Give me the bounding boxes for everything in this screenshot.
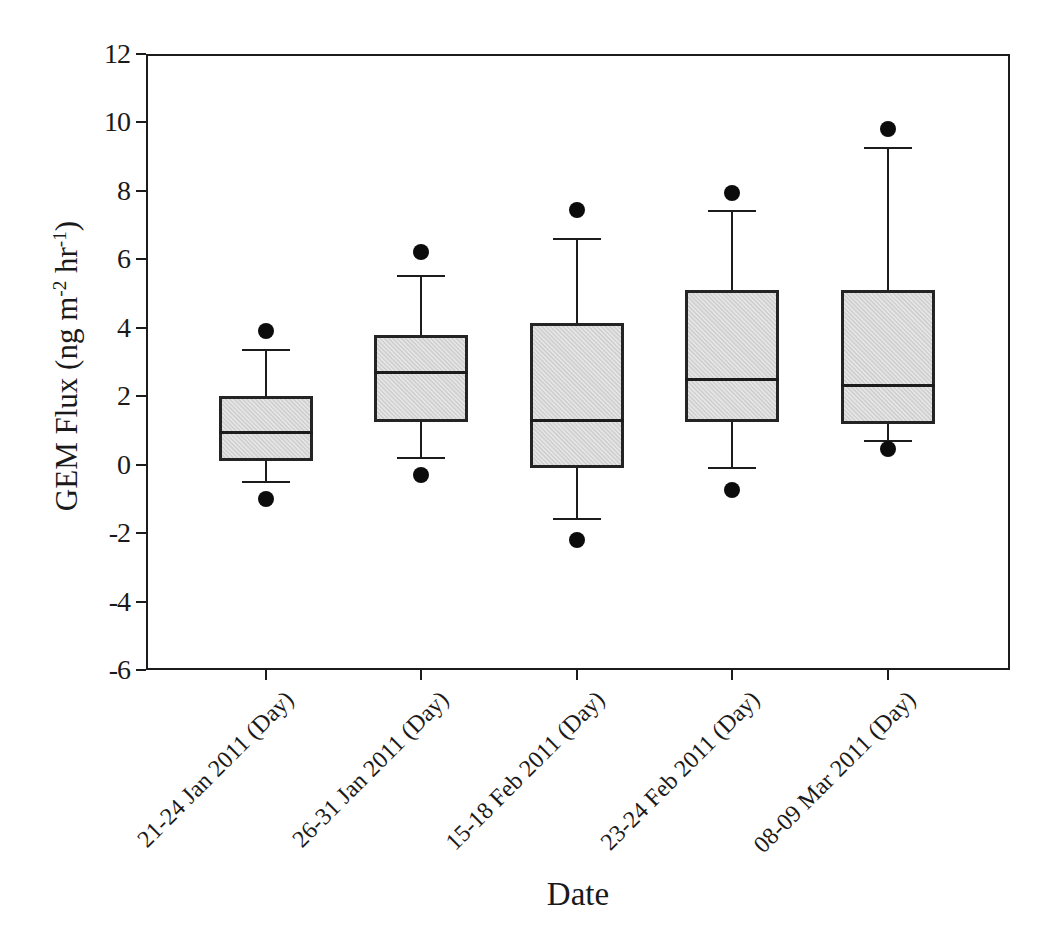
lower-whisker-line xyxy=(576,468,578,519)
y-tick-mark xyxy=(136,53,146,55)
lower-whisker-line xyxy=(731,422,733,468)
outlier-dot xyxy=(413,467,429,483)
median-line xyxy=(374,371,468,374)
y-axis-title-sup-1: -1 xyxy=(49,231,70,247)
outlier-dot xyxy=(569,532,585,548)
upper-whisker-line xyxy=(420,276,422,334)
lower-whisker-cap xyxy=(242,481,290,483)
x-tick-mark xyxy=(265,670,267,680)
y-tick-mark xyxy=(136,258,146,260)
box-rect xyxy=(530,323,624,468)
outlier-dot xyxy=(569,202,585,218)
outlier-dot xyxy=(724,185,740,201)
upper-whisker-line xyxy=(576,239,578,323)
x-tick-mark xyxy=(887,670,889,680)
y-tick-mark xyxy=(136,395,146,397)
box-rect xyxy=(841,290,935,423)
y-axis-title-mid: hr xyxy=(49,247,84,281)
box-rect xyxy=(374,335,468,422)
outlier-dot xyxy=(258,323,274,339)
upper-whisker-cap xyxy=(553,238,601,240)
upper-whisker-line xyxy=(731,211,733,290)
y-tick-mark xyxy=(136,464,146,466)
lower-whisker-cap xyxy=(397,457,445,459)
lower-whisker-line xyxy=(420,422,422,458)
y-axis-title-sup-2: -2 xyxy=(49,281,70,297)
y-tick-mark xyxy=(136,327,146,329)
upper-whisker-line xyxy=(265,350,267,396)
y-axis-title: GEM Flux (ng m-2 hr-1) xyxy=(40,56,80,676)
x-tick-mark xyxy=(576,670,578,680)
outlier-dot xyxy=(258,491,274,507)
y-tick-mark xyxy=(136,601,146,603)
box-rect xyxy=(219,396,313,461)
outlier-dot xyxy=(413,244,429,260)
y-axis-title-suffix: ) xyxy=(49,221,84,231)
y-axis-title-text: GEM Flux (ng m xyxy=(49,297,84,511)
y-tick-mark xyxy=(136,190,146,192)
median-line xyxy=(219,431,313,434)
x-tick-mark xyxy=(731,670,733,680)
y-tick-mark xyxy=(136,121,146,123)
x-axis-title: Date xyxy=(146,876,1010,913)
chart-layer: 121086420-2-4-621-24 Jan 2011 (Day)26-31… xyxy=(0,0,1058,951)
upper-whisker-cap xyxy=(708,210,756,212)
y-tick-mark xyxy=(136,532,146,534)
median-line xyxy=(841,384,935,387)
upper-whisker-cap xyxy=(864,147,912,149)
upper-whisker-cap xyxy=(397,275,445,277)
upper-whisker-line xyxy=(887,148,889,290)
y-tick-mark xyxy=(136,669,146,671)
lower-whisker-cap xyxy=(553,518,601,520)
box-rect xyxy=(685,290,779,422)
outlier-dot xyxy=(880,121,896,137)
lower-whisker-line xyxy=(265,461,267,482)
x-tick-mark xyxy=(420,670,422,680)
boxplot-figure: 121086420-2-4-621-24 Jan 2011 (Day)26-31… xyxy=(0,0,1058,951)
median-line xyxy=(685,378,779,381)
lower-whisker-line xyxy=(887,424,889,441)
outlier-dot xyxy=(880,441,896,457)
lower-whisker-cap xyxy=(708,467,756,469)
median-line xyxy=(530,419,624,422)
outlier-dot xyxy=(724,482,740,498)
upper-whisker-cap xyxy=(242,349,290,351)
